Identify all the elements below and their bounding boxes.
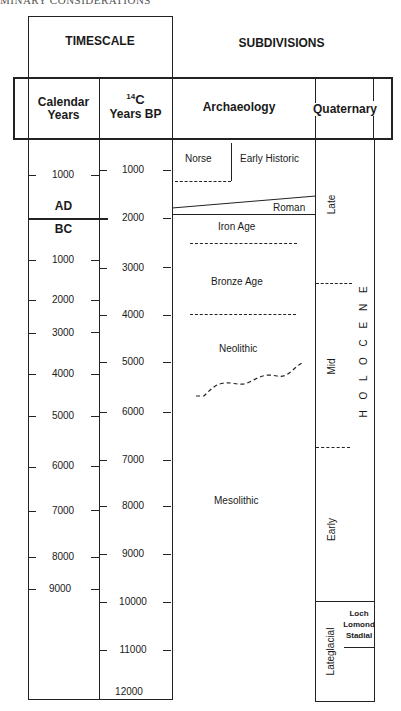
calendar-label: 1000 <box>38 254 88 265</box>
loch-lomond-stadial-label: Loch Lomond Stadial <box>342 608 376 641</box>
c14-tick-right <box>163 554 171 555</box>
iron-bronze-boundary-dashed <box>190 243 297 244</box>
calendar-label: 3000 <box>38 327 88 338</box>
c14-label: 8000 <box>108 500 158 511</box>
mesolithic-label: Mesolithic <box>214 495 258 506</box>
early-historic-label: Early Historic <box>240 153 299 164</box>
subdivisions-title: SUBDIVISIONS <box>172 37 391 50</box>
timescale-bottom <box>28 699 173 700</box>
neolithic-label: Neolithic <box>219 343 257 354</box>
c14-tick-right <box>163 460 171 461</box>
calendar-tick-right <box>91 416 99 417</box>
neolithic-mesolithic-wavy-boundary <box>190 358 310 403</box>
calendar-column-right <box>99 140 100 700</box>
bronze-age-label: Bronze Age <box>211 276 263 287</box>
c14-tick-right <box>163 650 171 651</box>
calendar-tick-left <box>28 467 36 468</box>
calendar-tick-right <box>91 510 99 511</box>
c14-tick-right <box>163 362 171 363</box>
header-divider-quaternary-right <box>373 79 374 101</box>
mid-early-boundary-dashed <box>316 447 350 448</box>
c14-tick-left <box>99 602 107 603</box>
c14-tick-right <box>163 506 171 507</box>
c14-tick-left <box>99 362 107 363</box>
calendar-label: 2000 <box>38 294 88 305</box>
c14-tick-right <box>163 412 171 413</box>
norse-box-bottom-dashed <box>175 181 231 182</box>
c14-label: 12000 <box>104 686 154 697</box>
iron-age-label: Iron Age <box>218 221 255 232</box>
calendar-label: 6000 <box>38 460 88 471</box>
calendar-tick-left <box>28 300 36 301</box>
c14-header-line2: Years BP <box>99 108 172 121</box>
calendar-tick-right <box>91 260 99 261</box>
c14-label: 3000 <box>108 262 158 273</box>
c14-tick-right <box>163 602 171 603</box>
c14-tick-left <box>99 554 107 555</box>
c14-years-header: 14C Years BP <box>99 88 172 121</box>
holocene-early-label: Early <box>326 515 337 545</box>
calendar-tick-right <box>91 557 99 558</box>
archaeology-header: Archaeology <box>180 101 298 114</box>
c14-tick-right <box>163 267 171 268</box>
c14-label: 1000 <box>108 164 158 175</box>
quaternary-column-left <box>315 140 316 702</box>
calendar-tick-right <box>91 589 99 590</box>
timescale-box-top <box>28 16 172 17</box>
c14-tick-right <box>163 315 171 316</box>
stadial-line2: Lomond <box>342 619 376 630</box>
norse-label: Norse <box>185 153 212 164</box>
calendar-label: 1000 <box>38 169 88 180</box>
c14-tick-right <box>163 170 171 171</box>
quaternary-header: Quaternary <box>308 103 382 116</box>
holocene-late-label: Late <box>326 193 337 217</box>
calendar-tick-left <box>28 416 36 417</box>
calendar-tick-right <box>91 332 99 333</box>
c14-label: 4000 <box>108 309 158 320</box>
ad-label: AD <box>28 199 99 213</box>
calendar-tick-left <box>28 557 36 558</box>
ad-bc-boundary <box>28 218 108 220</box>
c14-tick-left <box>99 170 107 171</box>
c14-superscript: 14 <box>126 92 135 101</box>
c14-symbol: C <box>135 92 144 107</box>
running-head: MINARY CONSIDERATIONS <box>0 0 151 6</box>
calendar-header-line2: Years <box>28 109 99 122</box>
calendar-tick-right <box>91 374 99 375</box>
c14-label: 6000 <box>108 406 158 417</box>
c14-tick-left <box>99 315 107 316</box>
c14-tick-left <box>99 268 107 269</box>
calendar-tick-right <box>91 175 99 176</box>
stadial-interstadial-boundary <box>344 647 374 648</box>
bc-label: BC <box>28 222 99 236</box>
c14-label: 2000 <box>108 212 158 223</box>
header-divider-quaternary-right-lower <box>373 114 374 140</box>
quaternary-bottom <box>316 701 375 702</box>
stadial-line3: Stadial <box>342 630 376 641</box>
c14-label: 10000 <box>108 596 158 607</box>
late-mid-boundary-dashed <box>316 283 352 284</box>
c14-tick-left <box>99 412 107 413</box>
holocene-label: H O L O C E N E <box>358 298 369 418</box>
calendar-years-header: Calendar Years <box>28 96 99 122</box>
calendar-label: 7000 <box>38 505 88 516</box>
c14-tick-left <box>99 460 107 461</box>
c14-label: 7000 <box>108 454 158 465</box>
c14-label: 11000 <box>108 644 158 655</box>
c14-tick-right <box>163 218 171 219</box>
calendar-label: 9000 <box>35 583 85 594</box>
norse-box-right <box>231 143 232 181</box>
calendar-label: 5000 <box>38 410 88 421</box>
c14-label: 9000 <box>108 548 158 559</box>
holocene-mid-label: Mid <box>326 357 337 377</box>
calendar-tick-right <box>91 466 99 467</box>
c14-tick-left <box>99 650 107 651</box>
calendar-tick-left <box>28 511 36 512</box>
lateglacial-label: Lateglacial <box>325 622 336 682</box>
calendar-tick-left <box>28 374 36 375</box>
roman-iron-age-boundary <box>172 214 315 215</box>
c14-column-right <box>172 140 173 700</box>
stadial-line1: Loch <box>342 608 376 619</box>
calendar-tick-right <box>91 300 99 301</box>
calendar-tick-left <box>28 175 36 176</box>
